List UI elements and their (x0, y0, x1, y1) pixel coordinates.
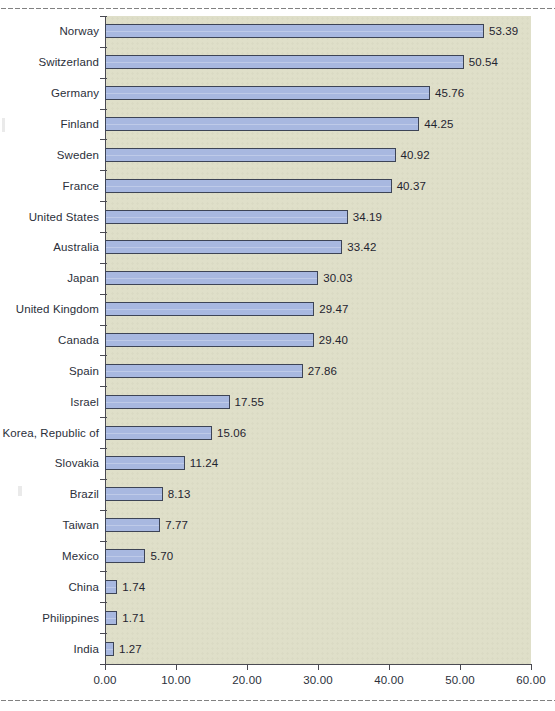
bar-value-label: 1.27 (119, 643, 142, 655)
bar-value-label: 27.86 (308, 365, 337, 377)
x-axis-tick-label: 60.00 (516, 674, 545, 686)
y-axis-tick (100, 479, 107, 480)
bar-row: Germany45.76 (0, 78, 555, 109)
y-axis-tick (100, 232, 107, 233)
y-axis-tick (100, 602, 107, 603)
bar (105, 24, 484, 38)
bar-row: United Kingdom29.47 (0, 294, 555, 325)
y-axis-tick (100, 201, 107, 202)
bar-highlight (106, 587, 116, 588)
y-axis-tick (100, 170, 107, 171)
bar-row: China1.74 (0, 571, 555, 602)
bar (105, 240, 342, 254)
bar-value-label: 11.24 (190, 457, 218, 469)
category-label: Slovakia (55, 457, 99, 469)
y-axis-tick (100, 633, 107, 634)
y-axis-tick (100, 541, 107, 542)
dotted-rule-top (0, 7, 555, 10)
category-label: Sweden (57, 149, 99, 161)
category-label: Germany (51, 87, 99, 99)
y-axis-tick (100, 47, 107, 48)
category-label: China (68, 581, 99, 593)
category-label: Brazil (70, 488, 99, 500)
bar (105, 395, 230, 409)
y-axis-tick (100, 417, 107, 418)
bar (105, 55, 464, 69)
x-axis-tick (176, 664, 177, 670)
bar-highlight (106, 186, 391, 187)
category-label: Switzerland (38, 56, 99, 68)
bar-value-label: 17.55 (235, 396, 264, 408)
bar (105, 117, 419, 131)
x-axis-tick-label: 10.00 (161, 674, 190, 686)
bar-highlight (106, 463, 184, 464)
bar (105, 210, 348, 224)
bar-highlight (106, 62, 463, 63)
bar-row: Norway53.39 (0, 16, 555, 47)
bar-row: Brazil8.13 (0, 479, 555, 510)
bar-highlight (106, 217, 347, 218)
dotted-rule-bottom (0, 699, 555, 702)
bar-highlight (106, 155, 395, 156)
bar (105, 549, 145, 563)
bar-highlight (106, 494, 162, 495)
bar-row: Slovakia11.24 (0, 448, 555, 479)
y-axis-tick (100, 294, 107, 295)
bar-value-label: 34.19 (353, 211, 382, 223)
category-label: United States (29, 211, 99, 223)
bar-highlight (106, 649, 113, 650)
bar-row: Taiwan7.77 (0, 510, 555, 541)
bar-highlight (106, 124, 418, 125)
x-axis-tick-label: 30.00 (303, 674, 332, 686)
y-axis-tick (100, 78, 107, 79)
bar-value-label: 7.77 (165, 519, 188, 531)
category-label: Philippines (42, 612, 99, 624)
category-label: United Kingdom (16, 303, 99, 315)
bar-highlight (106, 371, 302, 372)
category-label: Norway (59, 25, 99, 37)
bar-highlight (106, 278, 317, 279)
bar-value-label: 50.54 (469, 56, 498, 68)
y-axis-tick (100, 355, 107, 356)
category-label: Canada (58, 334, 99, 346)
x-axis-tick-label: 50.00 (445, 674, 474, 686)
bar (105, 426, 212, 440)
bar-highlight (106, 402, 229, 403)
bar-highlight (106, 525, 159, 526)
bar-row: Israel17.55 (0, 386, 555, 417)
horizontal-bar-chart: Norway53.39Switzerland50.54Germany45.76F… (0, 0, 555, 711)
bar (105, 302, 314, 316)
bar-row: Philippines1.71 (0, 602, 555, 633)
bar-value-label: 53.39 (489, 25, 518, 37)
bar (105, 487, 163, 501)
bar-row: Switzerland50.54 (0, 47, 555, 78)
bar (105, 642, 114, 656)
category-label: Taiwan (63, 519, 99, 531)
bar-highlight (106, 340, 313, 341)
bar-value-label: 1.74 (122, 581, 145, 593)
x-axis-tick (531, 664, 532, 670)
bar (105, 333, 314, 347)
y-axis-tick (100, 325, 107, 326)
bar-highlight (106, 309, 313, 310)
x-axis-tick-label: 40.00 (374, 674, 403, 686)
bar-row: Canada29.40 (0, 325, 555, 356)
bar-value-label: 40.37 (397, 180, 426, 192)
bar-highlight (106, 556, 144, 557)
category-label: France (63, 180, 99, 192)
bar-value-label: 1.71 (122, 612, 145, 624)
y-axis-tick (100, 386, 107, 387)
bar-value-label: 5.70 (150, 550, 173, 562)
bar-value-label: 29.40 (319, 334, 348, 346)
bar-row: France40.37 (0, 170, 555, 201)
category-label: Finland (61, 118, 99, 130)
bar-value-label: 30.03 (323, 272, 352, 284)
bar-row: India1.27 (0, 633, 555, 664)
category-label: Japan (67, 272, 99, 284)
bar (105, 86, 430, 100)
bar (105, 518, 160, 532)
bar-row: Spain27.86 (0, 355, 555, 386)
y-axis-tick (100, 109, 107, 110)
y-axis-tick (100, 448, 107, 449)
y-axis-tick (100, 510, 107, 511)
